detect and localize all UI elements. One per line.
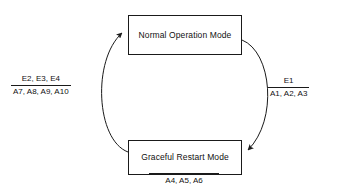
fraction-left: E2, E3, E4 A7, A8, A9, A10 — [11, 74, 71, 97]
edge-label-restart-to-normal: E2, E3, E4 A7, A8, A9, A10 — [11, 74, 71, 97]
fraction-right-denominator: A1, A2, A3 — [268, 88, 309, 99]
node-graceful-restart-mode[interactable]: Graceful Restart Mode — [128, 140, 242, 175]
node-graceful-restart-mode-label: Graceful Restart Mode — [141, 153, 229, 162]
fraction-right: E1 A1, A2, A3 — [268, 76, 309, 99]
state-transition-diagram: Normal Operation Mode Graceful Restart M… — [0, 0, 339, 190]
edge-restart-to-normal-path — [102, 33, 128, 152]
annotation-graceful-restart-actions: A4, A5, A6 — [149, 173, 219, 186]
node-normal-operation-mode[interactable]: Normal Operation Mode — [128, 15, 242, 55]
node-normal-operation-mode-label: Normal Operation Mode — [139, 31, 232, 40]
edge-label-normal-to-restart: E1 A1, A2, A3 — [268, 76, 309, 99]
fraction-left-denominator: A7, A8, A9, A10 — [11, 86, 71, 97]
fraction-right-numerator: E1 — [268, 76, 309, 88]
edge-normal-to-restart-path — [242, 40, 268, 150]
fraction-left-numerator: E2, E3, E4 — [11, 74, 71, 86]
annotation-graceful-restart-actions-text: A4, A5, A6 — [149, 173, 219, 186]
